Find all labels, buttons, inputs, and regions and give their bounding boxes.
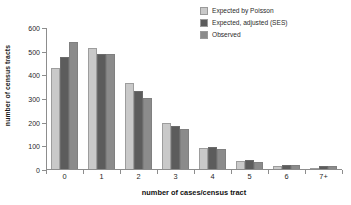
- bar: [69, 42, 78, 169]
- bar-group: [46, 28, 83, 169]
- x-axis-tick-label: 1: [83, 172, 120, 181]
- y-axis-tick-label: 300: [28, 96, 40, 103]
- bar: [171, 126, 180, 169]
- bar-chart-figure: Expected by Poisson Expected, adjusted (…: [0, 0, 351, 205]
- x-axis-tick-labels: 01234567+: [46, 172, 342, 181]
- bar-group: [268, 28, 305, 169]
- bar: [106, 54, 115, 169]
- legend-item-label: Expected by Poisson: [212, 7, 274, 15]
- bar: [208, 147, 217, 169]
- x-axis-tick-label: 4: [194, 172, 231, 181]
- bar: [236, 161, 245, 169]
- bar: [199, 148, 208, 169]
- bar-group: [194, 28, 231, 169]
- y-axis-tick-label: 0: [36, 167, 40, 174]
- y-axis-tick-label: 100: [28, 143, 40, 150]
- bar: [162, 123, 171, 169]
- x-axis-tick-label: 7+: [305, 172, 342, 181]
- bar-group: [305, 28, 342, 169]
- bar: [125, 83, 134, 169]
- x-axis-tick-label: 3: [157, 172, 194, 181]
- bar: [143, 98, 152, 169]
- bar-group: [231, 28, 268, 169]
- bar: [97, 54, 106, 169]
- bar-group: [120, 28, 157, 169]
- x-axis-tick-label: 6: [268, 172, 305, 181]
- y-axis-tick-label: 400: [28, 72, 40, 79]
- legend-item-expected-adjusted-ses: Expected, adjusted (SES): [200, 18, 288, 28]
- y-axis-tick-label: 200: [28, 119, 40, 126]
- bar: [88, 48, 97, 169]
- y-axis-tick-label: 500: [28, 48, 40, 55]
- bar: [310, 168, 319, 169]
- bar: [51, 68, 60, 169]
- bar: [273, 166, 282, 169]
- plot-area: 0100200300400500600: [46, 28, 342, 170]
- y-axis-title-text: number of census tracts: [5, 44, 12, 125]
- bar: [328, 166, 337, 169]
- x-axis-tick: [342, 170, 343, 174]
- bar: [282, 165, 291, 169]
- x-axis-tick-label: 5: [231, 172, 268, 181]
- y-axis-tick-label: 600: [28, 25, 40, 32]
- x-axis-tick-label: 0: [46, 172, 83, 181]
- legend-item-expected-by-poisson: Expected by Poisson: [200, 6, 288, 16]
- bar: [134, 91, 143, 169]
- bar-groups: [46, 28, 342, 169]
- bar: [319, 166, 328, 169]
- x-axis-title: number of cases/census tract: [46, 188, 342, 197]
- legend-swatch-icon: [200, 7, 208, 15]
- legend-swatch-icon: [200, 19, 208, 27]
- bar: [180, 129, 189, 169]
- bar: [60, 57, 69, 169]
- legend-item-label: Expected, adjusted (SES): [212, 19, 288, 27]
- bar: [217, 149, 226, 169]
- bar: [291, 165, 300, 169]
- bar: [254, 162, 263, 169]
- x-axis-tick-label: 2: [120, 172, 157, 181]
- y-axis-title: number of census tracts: [2, 0, 14, 170]
- bar-group: [157, 28, 194, 169]
- bar: [245, 160, 254, 169]
- bar-group: [83, 28, 120, 169]
